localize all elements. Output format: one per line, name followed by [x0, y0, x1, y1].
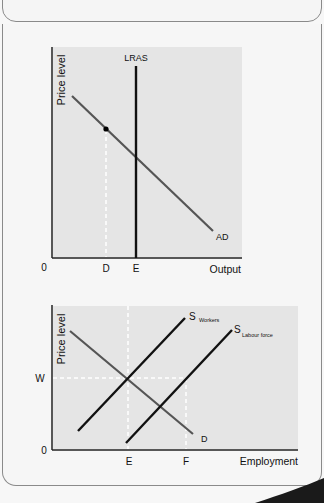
x-tick-d: D: [102, 263, 109, 274]
charts-canvas: LRAS AD Price level 0 D E Output S Worke…: [0, 0, 324, 503]
s-labour-force-label: S: [234, 324, 241, 335]
point-on-ad: [103, 126, 108, 131]
y-axis-label: Price level: [55, 314, 67, 365]
x-tick-f: F: [183, 456, 189, 467]
y-axis-label: Price level: [55, 55, 67, 106]
y-tick-w: W: [35, 373, 45, 384]
origin-label: 0: [41, 445, 47, 456]
chart-labour-market: S Workers S Labour force D Price level W…: [35, 305, 298, 467]
ad-label: AD: [216, 232, 229, 242]
origin-label: 0: [41, 262, 47, 273]
x-tick-e: E: [126, 456, 133, 467]
s-workers-subscript: Workers: [199, 317, 220, 323]
x-axis-label: Output: [209, 263, 241, 275]
chart-lras-ad: LRAS AD Price level 0 D E Output: [41, 47, 242, 275]
plot-area: [53, 47, 242, 257]
s-labour-force-subscript: Labour force: [242, 332, 273, 338]
page-curl-shape: [255, 478, 324, 503]
lras-label: LRAS: [124, 53, 148, 63]
x-axis-label: Employment: [240, 455, 298, 467]
d-label: D: [201, 434, 208, 444]
s-workers-label: S: [189, 311, 196, 322]
x-tick-e: E: [133, 263, 140, 274]
